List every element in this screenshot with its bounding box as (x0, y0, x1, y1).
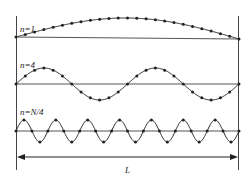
mass-point (182, 119, 185, 122)
mass-point (222, 130, 225, 133)
mass-point (70, 83, 73, 86)
mass-point (135, 75, 138, 78)
mass-point (163, 69, 166, 72)
mass-point (89, 96, 92, 99)
mass-point (174, 130, 177, 133)
mass-point (154, 67, 157, 70)
mode-label: n=1 (20, 24, 35, 34)
mass-point (182, 23, 185, 26)
mode-n-1: n=1 (15, 17, 241, 41)
mass-point (94, 130, 97, 133)
mass-point (230, 141, 233, 144)
mass-point (210, 99, 213, 102)
mass-point (52, 69, 55, 72)
mass-point (191, 25, 194, 28)
mass-point (190, 130, 193, 133)
mass-point (22, 119, 25, 122)
mass-point (198, 141, 201, 144)
mode-n-n-4: n=N/4 (15, 107, 241, 144)
arrowhead-right-icon (230, 154, 238, 160)
mass-point (145, 69, 148, 72)
mass-point (89, 19, 92, 22)
mass-point (98, 18, 101, 21)
mass-point (172, 75, 175, 78)
mass-point (172, 21, 175, 24)
length-dimension: L (17, 154, 238, 175)
mass-point (46, 130, 49, 133)
mass-point (150, 119, 153, 122)
mass-point (52, 26, 55, 29)
mass-point (135, 17, 138, 20)
mass-point (191, 91, 194, 94)
wave-modes: n=1n=4n=N/4 (15, 17, 241, 144)
mode-n-4: n=4 (15, 60, 241, 102)
mass-point (117, 91, 120, 94)
mass-point (110, 130, 113, 133)
mass-point (42, 67, 45, 70)
length-label: L (124, 165, 130, 175)
standing-wave-diagram: n=1n=4n=N/4 L (0, 0, 252, 180)
mass-point (102, 141, 105, 144)
mass-point (107, 17, 110, 20)
mass-point (126, 17, 129, 20)
mass-point (61, 75, 64, 78)
mass-point (158, 130, 161, 133)
mass-point (210, 30, 213, 33)
mass-point (219, 32, 222, 35)
mass-point (200, 96, 203, 99)
mass-point (15, 83, 18, 86)
mass-point (80, 20, 83, 23)
mass-point (118, 119, 121, 122)
mass-point (78, 130, 81, 133)
mass-point (61, 24, 64, 27)
mass-point (70, 22, 73, 25)
mass-point (219, 96, 222, 99)
mass-point (126, 83, 129, 86)
mass-point (80, 91, 83, 94)
mass-point (126, 130, 129, 133)
mode-label: n=N/4 (20, 107, 44, 117)
mass-point (238, 38, 241, 41)
equilibrium-line (16, 37, 239, 39)
mode-label: n=4 (20, 60, 36, 70)
mass-point (200, 27, 203, 30)
mass-point (134, 141, 137, 144)
mass-point (228, 35, 231, 38)
mass-point (214, 119, 217, 122)
mass-point (166, 141, 169, 144)
mass-point (42, 28, 45, 31)
mass-point (70, 141, 73, 144)
mass-point (30, 130, 33, 133)
arrowhead-left-icon (17, 154, 25, 160)
mass-point (228, 91, 231, 94)
mass-point (145, 17, 148, 20)
wave-curve (16, 18, 239, 39)
mass-point (98, 99, 101, 102)
mass-point (38, 141, 41, 144)
mass-point (86, 119, 89, 122)
mass-point (24, 75, 27, 78)
mass-point (107, 96, 110, 99)
mass-point (15, 130, 18, 133)
mass-point (62, 130, 65, 133)
mass-point (238, 130, 241, 133)
mass-point (154, 18, 157, 21)
mass-point (206, 130, 209, 133)
mass-point (142, 130, 145, 133)
mass-point (182, 83, 185, 86)
mass-point (238, 83, 241, 86)
mass-point (54, 119, 57, 122)
mass-point (15, 36, 18, 39)
mass-point (117, 17, 120, 20)
mass-point (163, 20, 166, 23)
